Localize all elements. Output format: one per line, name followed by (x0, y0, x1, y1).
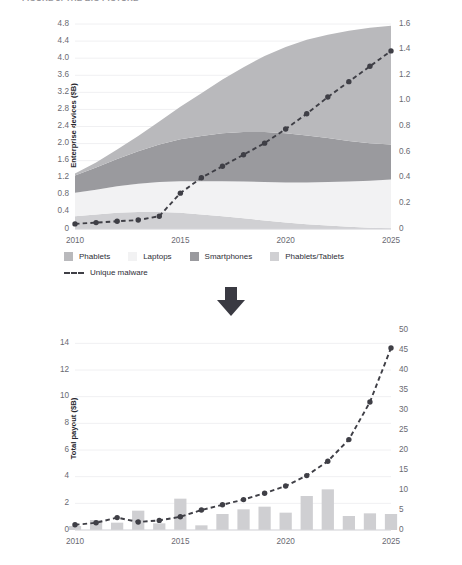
bar (195, 525, 207, 530)
legend-swatch (270, 252, 279, 261)
bar (301, 496, 313, 530)
figure-page: FIGURE 3: THE BIG PICTURE Enterprise dev… (0, 0, 462, 565)
bottom-chart-y-tick: 2 (41, 498, 69, 507)
bar (280, 513, 292, 530)
data-point (262, 140, 267, 145)
line-number-of-incidences (75, 348, 391, 525)
bar (153, 523, 165, 530)
data-point (157, 518, 162, 523)
bottom-chart-y2-tick: 25 (399, 425, 427, 434)
data-point (388, 48, 393, 53)
bottom-chart-y2-tick: 50 (399, 325, 427, 334)
legend-item[interactable]: Laptops (128, 252, 171, 261)
top-chart-y2-tick: 0.2 (399, 198, 427, 207)
top-chart-y2-tick: 1.0 (399, 95, 427, 104)
top-chart-y-tick: 1.2 (41, 172, 69, 181)
bottom-chart-y-tick: 4 (41, 471, 69, 480)
top-chart-y-tick: 1.6 (41, 155, 69, 164)
data-point (241, 497, 246, 502)
legend-label: Laptops (143, 252, 171, 261)
data-point (136, 519, 141, 524)
top-chart-y-tick: 0.8 (41, 189, 69, 198)
top-chart-y2-tick: 0.6 (399, 147, 427, 156)
bottom-chart-y-tick: 8 (41, 418, 69, 427)
bar (322, 489, 334, 530)
legend-label: Unique malware (90, 268, 148, 277)
legend-swatch (64, 252, 73, 261)
data-point (241, 152, 246, 157)
bar (237, 509, 249, 530)
top-chart-y-tick: 3.6 (41, 70, 69, 79)
top-chart-y-tick: 4.0 (41, 53, 69, 62)
data-point (157, 213, 162, 218)
top-chart-x-tick: 2015 (160, 236, 200, 245)
bottom-chart-y2-tick: 35 (399, 385, 427, 394)
bottom-chart-x-tick: 2025 (371, 537, 411, 546)
top-chart-block: Enterprise devices ($B) Unique malware (… (0, 18, 462, 248)
bottom-chart-y2-tick: 45 (399, 345, 427, 354)
bottom-chart-y2-tick: 20 (399, 445, 427, 454)
page-title: FIGURE 3: THE BIG PICTURE (22, 0, 139, 3)
bottom-chart-plot-area (75, 330, 391, 530)
data-point (283, 126, 288, 131)
bottom-chart-y2-tick: 30 (399, 405, 427, 414)
data-point (346, 79, 351, 84)
data-point (388, 345, 393, 350)
bar (216, 514, 228, 530)
top-chart-y-tick: 2.8 (41, 104, 69, 113)
legend-item[interactable]: Phablets/Tablets (270, 252, 344, 261)
bottom-chart-y-tick: 10 (41, 391, 69, 400)
data-point (93, 220, 98, 225)
data-point (199, 175, 204, 180)
bottom-chart-x-tick: 2015 (160, 537, 200, 546)
data-point (367, 399, 372, 404)
top-chart-y-tick: 0 (41, 224, 69, 233)
bottom-chart-x-tick: 2010 (55, 537, 95, 546)
data-point (283, 483, 288, 488)
bottom-chart-y-tick: 12 (41, 365, 69, 374)
data-point (262, 491, 267, 496)
top-chart-y2-tick: 1.2 (399, 70, 427, 79)
bar (258, 507, 270, 530)
data-point (304, 111, 309, 116)
top-chart-y-tick: 3.2 (41, 87, 69, 96)
bottom-chart-y2-tick: 0 (399, 525, 427, 534)
top-chart-y-tick: 2.4 (41, 121, 69, 130)
data-point (199, 507, 204, 512)
legend-item[interactable]: Phablets (64, 252, 110, 261)
bar (385, 514, 397, 530)
bottom-chart-y2-tick: 5 (399, 505, 427, 514)
bottom-chart-block: Total payout ($B) Number of incidences (… (0, 322, 462, 552)
bottom-chart-x-tick: 2020 (266, 537, 306, 546)
data-point (72, 221, 77, 226)
data-point (114, 219, 119, 224)
legend-swatch (128, 252, 137, 261)
top-chart-y-tick: 4.4 (41, 36, 69, 45)
data-point (304, 473, 309, 478)
data-point (178, 514, 183, 519)
top-chart-y-tick: 4.8 (41, 19, 69, 28)
data-point (325, 94, 330, 99)
bottom-chart-y-tick: 6 (41, 445, 69, 454)
bar (364, 513, 376, 530)
bottom-chart-y2-tick: 10 (399, 485, 427, 494)
bottom-chart-y-tick: 0 (41, 525, 69, 534)
data-point (136, 217, 141, 222)
bottom-chart-y-tick: 14 (41, 338, 69, 347)
top-chart-x-tick: 2010 (55, 236, 95, 245)
legend-item[interactable]: Unique malware (64, 268, 426, 277)
top-chart-y2-tick: 0.8 (399, 121, 427, 130)
bottom-chart-y2-tick: 40 (399, 365, 427, 374)
data-point (114, 515, 119, 520)
bar (111, 523, 123, 530)
top-chart-y2-tick: 0.4 (399, 172, 427, 181)
data-point (72, 522, 77, 527)
legend-swatch (190, 252, 199, 261)
top-chart-y2-tick: 0 (399, 224, 427, 233)
legend-item[interactable]: Smartphones (190, 252, 253, 261)
legend-label: Phablets/Tablets (285, 252, 344, 261)
top-chart-y2-tick: 1.6 (399, 19, 427, 28)
down-arrow-icon (214, 287, 248, 317)
data-point (220, 502, 225, 507)
bottom-chart-svg (75, 330, 391, 530)
